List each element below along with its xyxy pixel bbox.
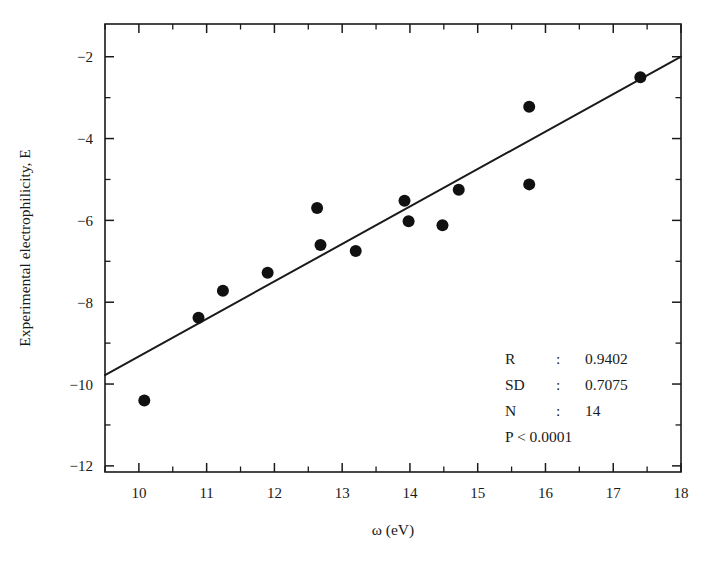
stat-separator: : [556, 402, 560, 419]
data-point [262, 267, 274, 279]
x-axis-title: ω (eV) [372, 521, 414, 539]
data-point [403, 215, 415, 227]
stat-separator: : [556, 350, 560, 367]
stat-separator: : [556, 376, 560, 393]
data-point [311, 202, 323, 214]
stat-value: 0.9402 [585, 350, 628, 367]
scatter-plot-figure: 101112131415161718 −2−4−6−8−10−12 ω (eV)… [0, 0, 720, 565]
data-point [523, 101, 535, 113]
stat-label: SD [505, 376, 525, 393]
x-tick-label: 16 [538, 485, 554, 501]
data-point [523, 178, 535, 190]
data-point [138, 394, 150, 406]
x-tick-label: 18 [674, 485, 689, 501]
x-tick-label: 11 [199, 485, 213, 501]
x-tick-label: 14 [402, 485, 418, 501]
chart-canvas: 101112131415161718 −2−4−6−8−10−12 ω (eV)… [0, 0, 720, 565]
y-tick-label: −10 [70, 377, 93, 393]
x-tick-label: 12 [267, 485, 282, 501]
chart-background [0, 0, 720, 565]
stat-label: N [505, 402, 516, 419]
data-point [436, 219, 448, 231]
y-tick-label: −8 [77, 295, 93, 311]
data-point [634, 71, 646, 83]
stat-value: 14 [585, 402, 601, 419]
stat-pvalue: P < 0.0001 [505, 428, 572, 445]
data-point [314, 239, 326, 251]
x-tick-label: 13 [335, 485, 350, 501]
data-point [453, 184, 465, 196]
data-point [399, 195, 411, 207]
data-point [350, 245, 362, 257]
data-point [193, 312, 205, 324]
y-tick-label: −2 [77, 49, 93, 65]
x-tick-label: 17 [606, 485, 622, 501]
stat-value: 0.7075 [585, 376, 628, 393]
stat-label: R [505, 350, 516, 367]
y-tick-label: −4 [77, 131, 93, 147]
data-point [217, 285, 229, 297]
y-tick-label: −6 [77, 213, 93, 229]
y-tick-label: −12 [70, 458, 93, 474]
x-tick-label: 15 [470, 485, 485, 501]
x-tick-label: 10 [131, 485, 146, 501]
y-axis-title: Experimental electrophilicity, E [16, 149, 33, 346]
